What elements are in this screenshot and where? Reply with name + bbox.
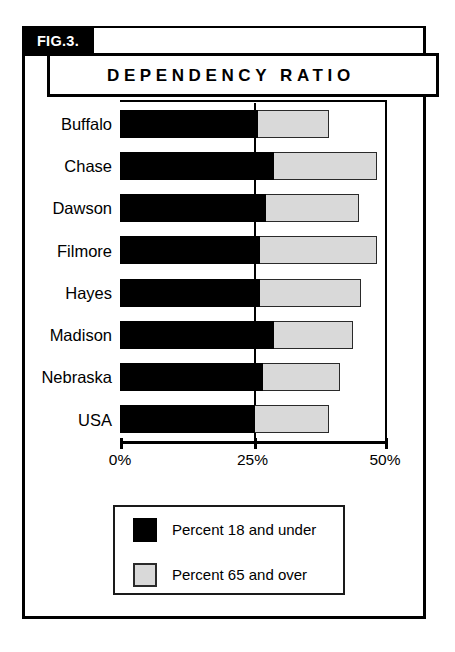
figure-root: FIG.3. DEPENDENCY RATIO BuffaloChaseDaws… — [0, 0, 455, 652]
bar-row: Filmore — [34, 230, 386, 272]
bar-row: Chase — [34, 145, 386, 187]
bar-segment-over65 — [263, 363, 340, 391]
x-axis-tick-label: 0% — [109, 452, 131, 468]
figure-number-label: FIG.3. — [37, 34, 79, 49]
x-tick-50 — [385, 438, 388, 449]
bar-segment-under18 — [120, 405, 255, 433]
bar-track — [120, 357, 386, 399]
bar-track — [120, 103, 386, 145]
figure-number-tab: FIG.3. — [22, 26, 94, 56]
legend-item[interactable]: Percent 65 and over — [115, 552, 343, 597]
category-label-filmore: Filmore — [34, 243, 120, 260]
bar-segment-under18 — [120, 321, 274, 349]
stacked-bar-filmore[interactable] — [120, 236, 377, 264]
category-label-chase: Chase — [34, 158, 120, 175]
category-label-nebraska: Nebraska — [34, 369, 120, 386]
bar-track — [120, 188, 386, 230]
bar-segment-over65 — [274, 152, 377, 180]
bar-segment-over65 — [274, 321, 354, 349]
bar-segment-over65 — [260, 236, 377, 264]
bar-row: Dawson — [34, 188, 386, 230]
stacked-bar-hayes[interactable] — [120, 279, 361, 307]
bar-segment-over65 — [255, 405, 329, 433]
bar-row: Hayes — [34, 272, 386, 314]
x-axis-labels: 0%25%50% — [0, 452, 455, 474]
stacked-bar-dawson[interactable] — [120, 194, 359, 222]
chart-legend: Percent 18 and underPercent 65 and over — [113, 505, 345, 595]
figure-title: DEPENDENCY RATIO — [107, 67, 355, 84]
plot-top-border — [120, 100, 387, 102]
category-label-buffalo: Buffalo — [34, 116, 120, 133]
bar-track — [120, 272, 386, 314]
black-swatch-icon — [133, 518, 157, 542]
bar-segment-under18 — [120, 363, 263, 391]
stacked-bar-chase[interactable] — [120, 152, 377, 180]
legend-label: Percent 65 and over — [172, 567, 307, 582]
bar-track — [120, 145, 386, 187]
bar-segment-over65 — [258, 110, 330, 138]
figure-header-band — [94, 26, 425, 56]
bar-rows: BuffaloChaseDawsonFilmoreHayesMadisonNeb… — [34, 103, 386, 441]
bar-segment-over65 — [260, 279, 361, 307]
bar-row: Madison — [34, 314, 386, 356]
category-label-usa: USA — [34, 412, 120, 429]
bar-segment-under18 — [120, 194, 266, 222]
bar-row: USA — [34, 399, 386, 441]
bar-track — [120, 399, 386, 441]
bar-segment-over65 — [266, 194, 359, 222]
x-axis-tick-label: 25% — [237, 452, 268, 468]
stacked-bar-usa[interactable] — [120, 405, 329, 433]
stacked-bar-madison[interactable] — [120, 321, 353, 349]
category-label-hayes: Hayes — [34, 285, 120, 302]
bar-row: Buffalo — [34, 103, 386, 145]
bar-row: Nebraska — [34, 357, 386, 399]
bar-segment-under18 — [120, 152, 274, 180]
bar-segment-under18 — [120, 279, 260, 307]
category-label-madison: Madison — [34, 327, 120, 344]
stacked-bar-nebraska[interactable] — [120, 363, 340, 391]
x-axis-tick-label: 50% — [369, 452, 400, 468]
bar-segment-under18 — [120, 110, 258, 138]
x-tick-25 — [254, 438, 257, 449]
stacked-bar-buffalo[interactable] — [120, 110, 329, 138]
legend-label: Percent 18 and under — [172, 522, 316, 537]
figure-title-bar: DEPENDENCY RATIO — [47, 53, 439, 97]
gray-swatch-icon — [133, 563, 157, 587]
x-tick-0 — [120, 438, 123, 449]
category-label-dawson: Dawson — [34, 200, 120, 217]
bar-track — [120, 230, 386, 272]
bar-segment-under18 — [120, 236, 260, 264]
legend-item[interactable]: Percent 18 and under — [115, 507, 343, 552]
bar-track — [120, 314, 386, 356]
